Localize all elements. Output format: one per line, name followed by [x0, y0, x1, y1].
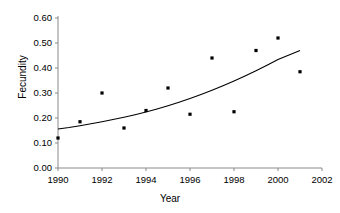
y-tick-label: 0.00	[14, 163, 52, 173]
axes	[58, 16, 322, 168]
x-tick-label: 1996	[170, 175, 210, 185]
y-tick-label: 0.60	[14, 13, 52, 23]
x-axis-title: Year	[0, 194, 340, 204]
trend-line-path	[58, 51, 300, 130]
y-tick-label: 0.10	[14, 138, 52, 148]
fecundity-scatter-chart: 0.000.100.200.300.400.500.60 19901992199…	[0, 0, 340, 213]
x-tick-label: 1990	[38, 175, 78, 185]
data-point-marker	[56, 136, 59, 139]
data-points	[56, 36, 301, 139]
data-point-marker	[78, 120, 81, 123]
axis-ticks	[55, 18, 322, 171]
data-point-marker	[166, 86, 169, 89]
x-tick-label: 2002	[302, 175, 340, 185]
data-point-marker	[298, 70, 301, 73]
data-point-marker	[232, 110, 235, 113]
y-tick-label: 0.20	[14, 113, 52, 123]
x-tick-label: 1994	[126, 175, 166, 185]
data-point-marker	[254, 49, 257, 52]
data-point-marker	[122, 126, 125, 129]
x-tick-label: 2000	[258, 175, 298, 185]
data-point-marker	[276, 36, 279, 39]
data-point-marker	[188, 113, 191, 116]
x-tick-label: 1998	[214, 175, 254, 185]
data-point-marker	[210, 56, 213, 59]
x-tick-label: 1992	[82, 175, 122, 185]
data-point-marker	[100, 91, 103, 94]
trend-line	[58, 51, 300, 130]
data-point-marker	[144, 109, 147, 112]
y-axis-title: Fecundity	[18, 42, 28, 112]
